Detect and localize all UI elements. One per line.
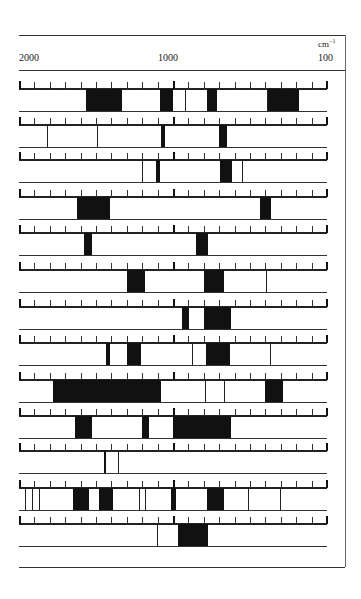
tick-mark <box>173 117 175 125</box>
tick-mark <box>96 118 97 125</box>
tick-mark <box>235 517 236 524</box>
tick-mark <box>173 335 175 343</box>
tick-mark <box>142 226 143 233</box>
tick-mark <box>265 153 266 160</box>
tick-mark <box>142 444 143 451</box>
tick-mark <box>204 226 205 233</box>
tick-mark <box>219 300 220 307</box>
row-baseline <box>19 255 327 256</box>
tick-mark <box>188 263 189 270</box>
tick-mark <box>111 263 112 270</box>
absorption-band <box>77 197 110 219</box>
tick-mark <box>158 263 159 270</box>
tick-mark <box>142 82 143 89</box>
absorption-band <box>196 233 208 255</box>
tick-mark <box>173 480 175 488</box>
tick-mark <box>19 262 21 270</box>
tick-mark <box>312 226 313 233</box>
tick-mark <box>312 517 313 524</box>
tick-mark <box>65 481 66 488</box>
absorption-band <box>104 451 106 473</box>
band-boundary-line <box>139 488 140 510</box>
frame-right <box>345 35 346 567</box>
tick-mark <box>173 152 175 160</box>
tick-mark <box>96 409 97 416</box>
tick-mark <box>265 373 266 380</box>
tick-mark <box>127 373 128 380</box>
tick-mark <box>281 82 282 89</box>
band-boundary-line <box>224 380 225 402</box>
absorption-band <box>219 125 227 147</box>
tick-mark <box>142 153 143 160</box>
tick-mark <box>19 408 21 416</box>
tick-mark <box>219 481 220 488</box>
tick-mark <box>204 373 205 380</box>
tick-mark <box>111 409 112 416</box>
tick-mark <box>312 263 313 270</box>
tick-mark <box>326 443 328 451</box>
frame-bottom <box>19 567 345 568</box>
tick-mark <box>158 444 159 451</box>
tick-mark <box>96 82 97 89</box>
tick-mark <box>50 336 51 343</box>
chart-row <box>19 373 328 403</box>
tick-mark <box>204 82 205 89</box>
tick-mark <box>34 409 35 416</box>
tick-mark <box>219 263 220 270</box>
tick-mark <box>204 153 205 160</box>
tick-mark <box>111 82 112 89</box>
tick-mark <box>265 118 266 125</box>
tick-mark <box>111 118 112 125</box>
tick-mark <box>96 373 97 380</box>
band-boundary-line <box>185 89 186 111</box>
absorption-band <box>178 524 208 546</box>
tick-mark <box>65 82 66 89</box>
absorption-band <box>267 89 299 111</box>
row-baseline <box>19 147 327 148</box>
tick-mark <box>111 517 112 524</box>
tick-mark <box>281 336 282 343</box>
tick-mark <box>81 409 82 416</box>
tick-mark <box>50 118 51 125</box>
axis-label-2000: 2000 <box>19 52 39 63</box>
band-boundary-line <box>248 488 249 510</box>
tick-mark <box>235 226 236 233</box>
absorption-band <box>161 125 165 147</box>
tick-mark <box>250 373 251 380</box>
tick-mark <box>188 517 189 524</box>
tick-mark <box>188 82 189 89</box>
tick-mark <box>111 336 112 343</box>
tick-mark <box>142 481 143 488</box>
chart-row <box>19 481 328 511</box>
tick-mark <box>296 336 297 343</box>
tick-mark <box>188 190 189 197</box>
chart-row <box>19 153 328 183</box>
absorption-band <box>53 380 161 402</box>
tick-mark <box>312 153 313 160</box>
tick-mark <box>65 444 66 451</box>
tick-mark <box>312 300 313 307</box>
tick-mark <box>235 300 236 307</box>
tick-mark <box>312 336 313 343</box>
tick-mark <box>111 190 112 197</box>
axis-label-1000: 1000 <box>158 52 178 63</box>
tick-mark <box>65 118 66 125</box>
tick-mark <box>265 82 266 89</box>
tick-mark <box>204 118 205 125</box>
tick-mark <box>235 82 236 89</box>
tick-mark <box>81 190 82 197</box>
tick-mark <box>158 373 159 380</box>
tick-mark <box>50 263 51 270</box>
tick-mark <box>204 409 205 416</box>
tick-mark <box>158 153 159 160</box>
chart-row <box>19 517 328 547</box>
tick-mark <box>188 409 189 416</box>
tick-mark <box>312 118 313 125</box>
absorption-band <box>260 197 271 219</box>
tick-mark <box>19 443 21 451</box>
tick-mark <box>296 373 297 380</box>
tick-mark <box>173 372 175 380</box>
tick-mark <box>81 517 82 524</box>
tick-mark <box>34 444 35 451</box>
tick-mark <box>296 517 297 524</box>
